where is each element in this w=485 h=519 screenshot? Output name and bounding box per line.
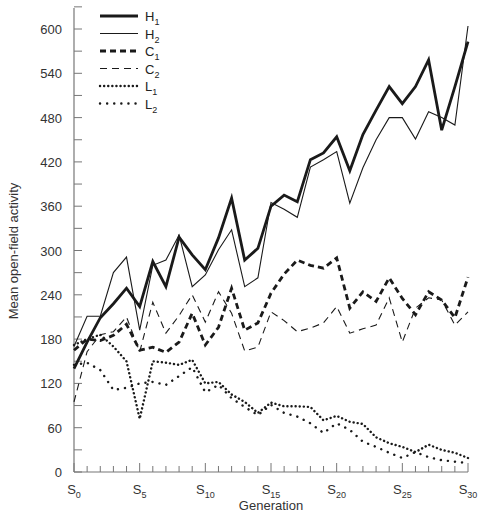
legend-label-l1: L1 [145,79,157,97]
x-tick-label: S30 [459,482,478,500]
y-tick-label: 480 [40,111,62,126]
y-tick-label: 60 [48,421,62,436]
y-tick-label: 600 [40,22,62,37]
x-tick-label: S10 [196,482,215,500]
x-tick-label: S25 [393,482,412,500]
legend-label-h1: H1 [145,9,159,27]
legend-label-h2: H2 [145,27,159,45]
x-axis-title: Generation [239,498,303,513]
y-tick-label: 540 [40,66,62,81]
y-tick-label: 0 [55,465,62,480]
series-lines [74,26,468,463]
y-tick-label: 120 [40,376,62,391]
y-tick-label: 420 [40,155,62,170]
y-tick-label: 240 [40,288,62,303]
axes: 060120180240300360420480540600S0S5S10S15… [40,7,477,500]
y-tick-label: 180 [40,332,62,347]
series-l2 [74,363,468,463]
series-l1 [74,335,468,458]
line-chart: 060120180240300360420480540600S0S5S10S15… [0,0,485,519]
x-tick-label: S5 [133,482,147,500]
legend-label-c1: C1 [145,44,159,62]
legend-label-c2: C2 [145,62,159,80]
x-tick-label: S0 [67,482,81,500]
x-tick-label: S20 [327,482,346,500]
series-c1 [74,258,468,353]
legend-label-l2: L2 [145,97,157,115]
y-tick-label: 360 [40,199,62,214]
y-tick-label: 300 [40,244,62,259]
legend: H1H2C1C2L1L2 [100,9,159,115]
y-axis-title: Mean open-field activity [6,182,21,319]
